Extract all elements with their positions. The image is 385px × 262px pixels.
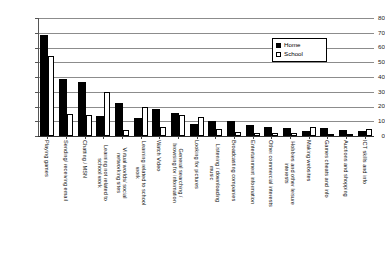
x-axis-label-cell: Other commercial interests [262, 140, 281, 260]
bar-home [246, 125, 254, 136]
bar-home [190, 124, 198, 136]
bar-school [86, 115, 92, 136]
bar-group [38, 18, 57, 136]
x-axis-label-cell: Listening / downloading music [206, 140, 225, 260]
x-axis-category-label: Virtual worlds/ social networking sites [116, 140, 128, 206]
x-axis-category-label: Entertainment information [250, 140, 256, 204]
bar-group [57, 18, 76, 136]
bar-group [94, 18, 113, 136]
x-axis-label-cell: Virtual worlds/ social networking sites [113, 140, 132, 260]
legend-item-school: School [276, 50, 323, 59]
bar-school [160, 127, 166, 136]
bar-home [264, 127, 272, 136]
chart-legend: Home School [272, 38, 327, 62]
bar-home [40, 35, 48, 136]
legend-label-home: Home [284, 42, 301, 48]
x-axis-category-label: Making websites [306, 140, 312, 181]
bar-home [59, 79, 67, 136]
x-axis-category-label: Watch Video [156, 140, 162, 171]
bar-home [171, 113, 179, 136]
bar-home [96, 116, 104, 136]
bar-home [78, 82, 86, 136]
bar-school [366, 129, 372, 136]
bar-school [142, 107, 148, 137]
x-axis-label-cell: Chatting / MSN [75, 140, 94, 260]
x-axis-category-label: Looking for pictures [194, 140, 200, 189]
bar-school [198, 117, 204, 136]
bar-school [310, 127, 316, 136]
bar-group [150, 18, 169, 136]
x-axis-category-label: General searching / browsing for informa… [172, 140, 184, 206]
legend-swatch-home-icon [276, 43, 281, 48]
x-axis-label-cell: ICT skills and info [355, 140, 374, 260]
x-axis-label-cell: Games cheats and info [318, 140, 337, 260]
x-axis-category-label: Sending/ receiving email [63, 140, 69, 201]
x-axis-label-cell: Learning not related to school work [94, 140, 113, 260]
bar-school [67, 114, 73, 136]
x-axis-category-label: Hobbies and other leisure interests [284, 140, 296, 206]
x-axis-category-label: Other commercial interests [268, 140, 274, 207]
bar-school [104, 92, 110, 136]
x-axis-category-label: Learning related to school work [135, 140, 147, 206]
bar-group [225, 18, 244, 136]
legend-label-school: School [284, 51, 303, 57]
bar-chart: 01020304050607080 Playing gamesSending/ … [0, 0, 385, 262]
bar-group [113, 18, 132, 136]
bar-home [134, 118, 142, 136]
x-axis-label-cell: Sending/ receiving email [57, 140, 76, 260]
x-axis-category-label: ICT skills and info [362, 140, 368, 184]
bar-school [216, 129, 222, 136]
legend-swatch-school-icon [276, 52, 281, 57]
bar-home [320, 128, 328, 136]
x-axis-category-label: Chatting / MSN [82, 140, 88, 178]
x-axis-label-cell: Entertainment information [243, 140, 262, 260]
bar-group [355, 18, 374, 136]
bar-home [208, 121, 216, 136]
x-axis-category-label: Listening / downloading music [209, 140, 221, 206]
legend-item-home: Home [276, 41, 323, 50]
x-axis-category-label: Games cheats and info [324, 140, 330, 198]
bar-group [281, 18, 300, 136]
bar-home [152, 109, 160, 136]
x-axis-label-cell: Making websites [299, 140, 318, 260]
bar-home [283, 128, 291, 136]
bar-home [227, 121, 235, 136]
x-axis-label-cell: Learning related to school work [131, 140, 150, 260]
bar-school [179, 115, 185, 136]
x-axis-label-cell: Hobbies and other leisure interests [281, 140, 300, 260]
bar-group [131, 18, 150, 136]
bar-group [243, 18, 262, 136]
bar-school [48, 56, 54, 136]
bar-group [299, 18, 318, 136]
bar-group [318, 18, 337, 136]
x-axis-label-cell: General searching / browsing for informa… [169, 140, 188, 260]
bar-group [187, 18, 206, 136]
bar-group [169, 18, 188, 136]
bar-group [206, 18, 225, 136]
x-axis-category-labels: Playing gamesSending/ receiving emailCha… [38, 140, 374, 260]
x-axis-label-cell: Watch Video [150, 140, 169, 260]
x-axis-category-label: Playing games [44, 140, 50, 177]
x-axis-label-cell: Playing games [38, 140, 57, 260]
x-axis-label-cell: Auctions and shopping [337, 140, 356, 260]
bar-group [337, 18, 356, 136]
x-axis-label-cell: Broadcasting companies [225, 140, 244, 260]
x-axis-category-label: Auctions and shopping [343, 140, 349, 197]
bar-groups [38, 18, 374, 136]
bar-group [75, 18, 94, 136]
x-axis-category-label: Learning not related to school work [97, 140, 109, 206]
bar-group [262, 18, 281, 136]
x-axis-category-label: Broadcasting companies [231, 140, 237, 201]
bar-home [115, 103, 123, 136]
x-axis-label-cell: Looking for pictures [187, 140, 206, 260]
